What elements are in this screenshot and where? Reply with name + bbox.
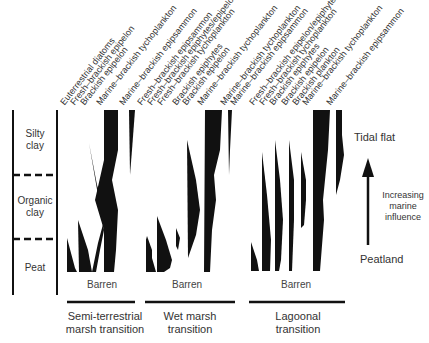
transition-title-lagoonal: Lagoonal transition [253, 310, 343, 336]
marine-influence-caption: Increasing marine influence [378, 190, 428, 223]
group-wet-marsh-shapes [146, 110, 232, 272]
barren-label: Barren [87, 279, 117, 290]
unit-label-line: Peat [17, 262, 53, 274]
title-line: Wet marsh [145, 310, 235, 323]
unit-peat-label: Peat [17, 262, 53, 274]
unit-label-line: Silty [17, 128, 53, 140]
title-line: Lagoonal [253, 310, 343, 323]
transition-title-wet-marsh: Wet marsh transition [145, 310, 235, 336]
title-line: transition [145, 323, 235, 336]
caption-line: influence [378, 212, 428, 223]
unit-label-line: Organic [15, 195, 55, 207]
group-lagoonal-shapes [251, 110, 344, 271]
diatom-zonation-diagram: Silty clay Organic clay Peat Euterrestri… [0, 0, 429, 343]
title-line: Semi-terrestrial [60, 310, 150, 323]
caption-line: marine [378, 201, 428, 212]
group-semi-terrestrial-shapes [67, 110, 152, 272]
tidal-flat-label: Tidal flat [354, 131, 414, 143]
caption-line: Increasing [378, 190, 428, 201]
transition-title-semi-terrestrial: Semi-terrestrial marsh transition [60, 310, 150, 336]
title-line: transition [253, 323, 343, 336]
peatland-label: Peatland [360, 253, 420, 265]
unit-label-line: clay [17, 140, 53, 152]
title-line: marsh transition [60, 323, 150, 336]
barren-label: Barren [172, 279, 202, 290]
unit-silty-clay-label: Silty clay [17, 128, 53, 152]
barren-label: Barren [281, 279, 311, 290]
increasing-marine-arrow [362, 158, 374, 245]
unit-label-line: clay [15, 207, 55, 219]
unit-organic-clay-label: Organic clay [15, 195, 55, 219]
